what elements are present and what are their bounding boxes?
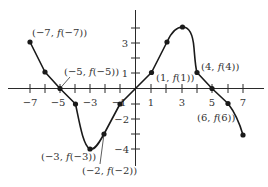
point-label-m2: (−2, f(−2)) (82, 165, 137, 176)
y-tick-label: −4 (114, 144, 129, 155)
point-label-p4: (4, f(4)) (201, 61, 239, 72)
function-graph: −7 −5 −3 −1 1 3 5 7 3 1 −2 −4 (−7, f(−7)… (0, 0, 268, 187)
data-point (42, 69, 47, 74)
x-tick-label: 7 (240, 97, 246, 108)
x-tick-label: 3 (179, 97, 185, 108)
point-label-p6: (6, f(6)) (197, 112, 235, 123)
data-point (27, 39, 32, 44)
y-tick-label: −2 (114, 114, 129, 125)
point-label-m7: (−7, f(−7)) (32, 27, 87, 38)
y-tick-label: 1 (122, 68, 128, 79)
data-point (164, 39, 169, 44)
x-tick-label: 1 (148, 97, 154, 108)
data-point (149, 70, 154, 75)
data-point (117, 101, 122, 106)
data-point (240, 132, 245, 137)
data-point (180, 24, 185, 29)
data-point (73, 101, 78, 106)
data-point (225, 101, 230, 106)
y-tick-label: 3 (122, 38, 128, 49)
data-point (101, 131, 106, 136)
point-label-m3: (−3, f(−3)) (41, 151, 96, 162)
point-label-m5: (−5, f(−5)) (64, 66, 119, 77)
point-label-p1: (1, f(1)) (156, 72, 194, 83)
data-point (209, 86, 214, 91)
data-point (57, 86, 62, 91)
data-point (194, 70, 199, 75)
x-tick-label: −5 (51, 97, 66, 108)
x-tick-label: 5 (209, 97, 215, 108)
x-tick-label: −3 (83, 97, 98, 108)
x-tick-label: −7 (23, 97, 38, 108)
